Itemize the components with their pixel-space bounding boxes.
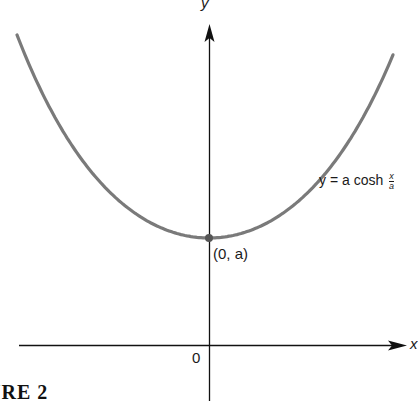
fraction-denominator: a bbox=[389, 182, 394, 191]
x-axis-label: x bbox=[410, 335, 418, 352]
equation-fraction: x a bbox=[389, 172, 394, 191]
y-axis-label: y bbox=[201, 0, 209, 11]
vertex-point bbox=[205, 234, 213, 242]
curve-equation-label: y = a cosh x a bbox=[319, 172, 394, 191]
origin-label: 0 bbox=[192, 349, 200, 366]
catenary-curve bbox=[17, 35, 393, 238]
equation-text: y = a cosh bbox=[319, 172, 383, 188]
figure-caption: URE 2 bbox=[0, 381, 48, 401]
vertex-label: (0, a) bbox=[213, 245, 248, 262]
